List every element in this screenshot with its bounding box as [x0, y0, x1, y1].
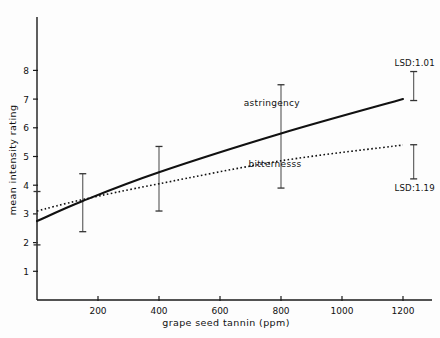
data-series: [37, 99, 403, 221]
lsd-bar-astringency: [410, 72, 417, 101]
chart-svg: 12345678 20040060080010001200 grape seed…: [0, 0, 440, 338]
x-axis-title: grape seed tannin (ppm): [162, 317, 290, 328]
error-bar: [156, 146, 163, 211]
chart-figure: 12345678 20040060080010001200 grape seed…: [0, 0, 440, 338]
series-line-astringency: [37, 99, 403, 221]
y-axis-title: mean intensity rating: [7, 105, 18, 216]
error-bar: [34, 192, 41, 245]
x-tick-label: 600: [211, 306, 228, 316]
y-axis-tick-labels: 12345678: [23, 66, 29, 277]
y-tick-label: 7: [23, 95, 29, 105]
y-tick-label: 8: [23, 66, 29, 76]
lsd-bar-bitternesss: [410, 145, 417, 179]
x-tick-label: 1000: [331, 306, 354, 316]
series-label-bitternesss: bitternesss: [248, 159, 301, 169]
x-tick-label: 1200: [392, 306, 415, 316]
y-tick-label: 2: [23, 238, 29, 248]
series-line-bitternesss: [37, 145, 403, 211]
lsd-label-bitternesss: LSD:1.19: [394, 183, 435, 193]
series-label-astringency: astringency: [244, 98, 301, 108]
x-tick-label: 800: [272, 306, 289, 316]
y-tick-label: 1: [23, 267, 29, 277]
y-tick-label: 3: [23, 209, 29, 219]
series-inline-labels: astringencybitternesss: [244, 98, 302, 169]
x-tick-label: 200: [89, 306, 106, 316]
error-bars: [34, 85, 285, 245]
axis-lines: [37, 17, 432, 300]
x-tick-label: 400: [150, 306, 167, 316]
x-axis-tick-labels: 20040060080010001200: [89, 306, 414, 316]
lsd-markers: LSD:1.01LSD:1.19: [394, 58, 435, 193]
y-tick-label: 4: [23, 181, 29, 191]
lsd-label-astringency: LSD:1.01: [394, 58, 435, 68]
y-tick-label: 5: [23, 152, 29, 162]
y-tick-label: 6: [23, 123, 29, 133]
